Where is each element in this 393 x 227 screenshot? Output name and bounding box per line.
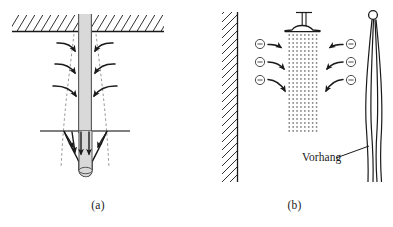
panel-b: Vorhang (b)	[196, 0, 393, 227]
minus-circle-icon	[346, 39, 355, 48]
minus-circle-icon	[255, 39, 264, 48]
curtain-ring	[369, 11, 378, 20]
panel-b-diagram	[196, 0, 393, 198]
entrained-air-cavity	[64, 131, 107, 177]
panel-b-caption: (b)	[196, 199, 393, 211]
panel-a: (a)	[0, 0, 196, 227]
vorhang-label: Vorhang	[302, 151, 341, 163]
water-droplet-spray	[289, 34, 318, 132]
pressure-symbols-right	[326, 39, 356, 91]
entrainment-arrows-left	[53, 43, 76, 96]
figure-container: (a)	[0, 0, 393, 227]
shower-head	[285, 12, 320, 32]
minus-circle-icon	[346, 75, 355, 84]
hatched-wall	[216, 0, 244, 198]
falling-water-column	[78, 14, 92, 150]
entrainment-arrows-right	[94, 43, 117, 96]
panel-a-caption: (a)	[0, 199, 196, 211]
minus-circle-icon	[346, 57, 355, 66]
panel-a-diagram	[0, 0, 196, 198]
minus-circle-icon	[255, 75, 264, 84]
pressure-symbols-left	[255, 39, 285, 91]
shower-curtain	[366, 11, 382, 182]
minus-circle-icon	[255, 57, 264, 66]
